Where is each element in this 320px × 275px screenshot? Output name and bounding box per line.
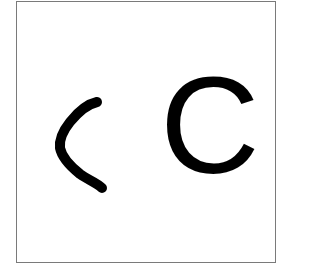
handwritten-less-than-stroke [50, 88, 120, 198]
printed-letter-c: C [160, 56, 260, 194]
